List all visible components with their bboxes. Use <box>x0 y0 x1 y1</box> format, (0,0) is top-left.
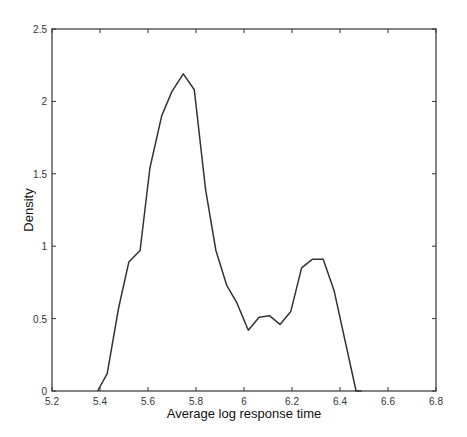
tick-label: 1.5 <box>33 169 47 180</box>
density-line <box>98 74 362 391</box>
tick-label: 5.2 <box>45 396 59 407</box>
tick-label: 2.5 <box>33 24 47 35</box>
axis-ticks <box>52 29 436 391</box>
tick-label: 6.4 <box>333 396 347 407</box>
tick-label: 5.6 <box>141 396 155 407</box>
tick-label: 1 <box>41 241 47 252</box>
tick-labels: 5.25.45.65.866.26.46.66.800.511.522.5 <box>33 24 443 407</box>
y-axis-label: Density <box>21 188 36 232</box>
tick-label: 0 <box>41 386 47 397</box>
tick-label: 6.6 <box>381 396 395 407</box>
x-axis-label: Average log response time <box>167 406 321 421</box>
tick-label: 5.4 <box>93 396 107 407</box>
tick-label: 2 <box>41 96 47 107</box>
tick-label: 0.5 <box>33 314 47 325</box>
density-chart: 5.25.45.65.866.26.46.66.800.511.522.5 Av… <box>0 0 467 437</box>
tick-label: 6.8 <box>429 396 443 407</box>
plot-frame <box>52 29 436 391</box>
